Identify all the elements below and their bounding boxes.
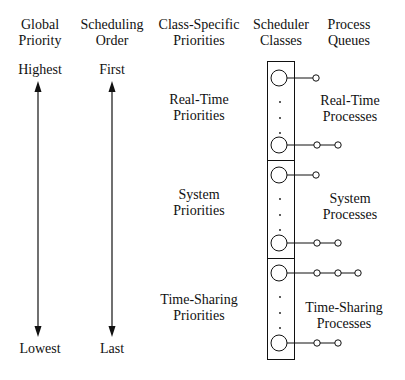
class-system — [271, 167, 341, 251]
scheduler-classes-box — [268, 62, 295, 360]
global-priority-arrow — [35, 81, 42, 337]
scheduling-order-arrow — [109, 81, 116, 337]
class-time-sharing — [271, 265, 361, 351]
scheduling-diagram — [0, 0, 405, 380]
class-real-time — [271, 70, 341, 153]
